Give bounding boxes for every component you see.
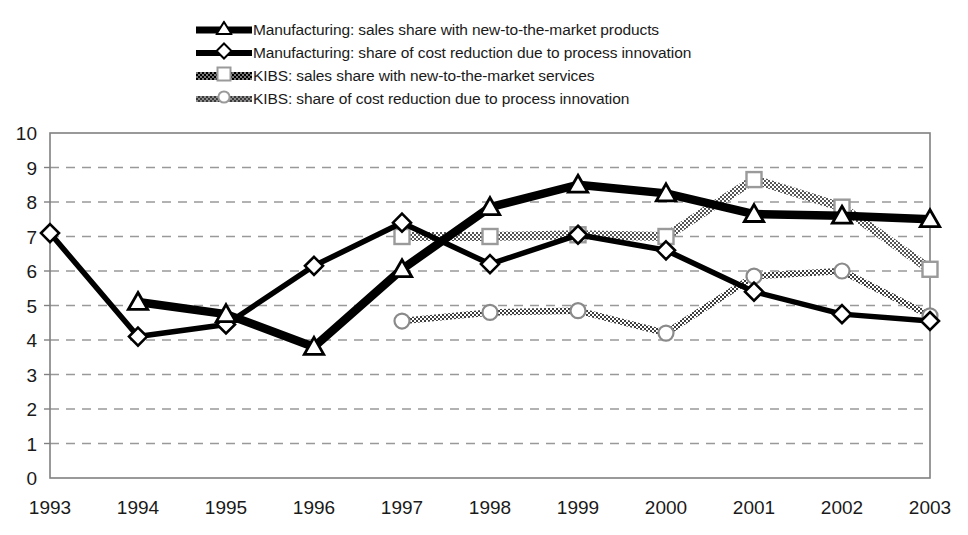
y-axis-label: 3 [26,365,37,386]
x-axis-label: 2003 [909,497,951,518]
x-axis-label: 1999 [557,497,599,518]
x-axis-label: 2002 [821,497,863,518]
series-kibs_cost [395,264,938,341]
y-axis-label: 1 [26,434,37,455]
y-axis-label: 6 [26,261,37,282]
series-line [402,271,930,333]
x-axis-label: 2001 [733,497,775,518]
x-axis-label: 1993 [29,497,71,518]
data-point-circle [483,305,498,320]
y-axis-label: 5 [26,296,37,317]
data-point-diamond [833,305,851,323]
x-axis-label: 1998 [469,497,511,518]
y-axis-label: 9 [26,158,37,179]
y-axis-labels: 012345678910 [16,123,38,489]
x-axis-label: 1995 [205,497,247,518]
data-point-circle [395,314,410,329]
data-point-circle [835,264,850,279]
y-axis-label: 8 [26,192,37,213]
y-axis-label: 0 [26,468,37,489]
data-point-circle [571,303,586,318]
y-axis-ticks [44,168,50,444]
data-series-layer [41,172,940,354]
data-point-diamond [745,283,763,301]
x-axis-label: 1996 [293,497,335,518]
line-chart: 012345678910 199319941995199619971998199… [0,0,968,535]
data-point-square [923,262,938,277]
data-point-square [747,172,762,187]
y-axis-label: 2 [26,399,37,420]
x-axis-labels: 1993199419951996199719981999200020012002… [29,497,951,518]
series-line [138,185,930,347]
chart-plot-area: 012345678910 199319941995199619971998199… [0,0,968,535]
y-axis-label: 10 [16,123,37,144]
x-axis-label: 1997 [381,497,423,518]
y-axis-label: 7 [26,227,37,248]
data-point-circle [659,326,674,341]
y-axis-label: 4 [26,330,37,351]
x-axis-label: 2000 [645,497,687,518]
x-axis-label: 1994 [117,497,160,518]
data-point-square [483,229,498,244]
